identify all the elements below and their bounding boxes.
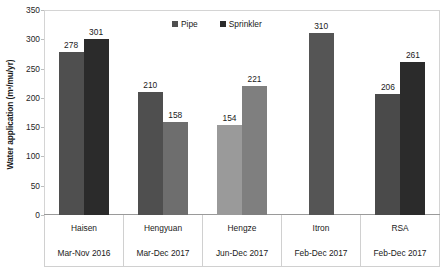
y-axis-tick-labels: 050100150200250300350: [14, 10, 40, 215]
bar-value-label: 278: [64, 40, 78, 50]
category-name: Itron: [282, 215, 360, 241]
bar-rect[interactable]: [84, 39, 109, 215]
bar-value-label: 154: [223, 113, 237, 123]
bar-sprinkler[interactable]: 261: [400, 10, 425, 215]
bar-chart: Water application (m³/mu/yr) 05010015020…: [0, 0, 447, 271]
y-axis-tick-mark: [41, 10, 44, 11]
category-period: Feb-Dec 2017: [361, 241, 439, 267]
bar-value-label: 310: [314, 21, 328, 31]
bar-pipe[interactable]: 154: [217, 10, 242, 215]
bar-rect[interactable]: [400, 62, 425, 215]
category-period: Mar-Dec 2017: [124, 241, 202, 267]
bar-rect[interactable]: [163, 122, 188, 215]
y-axis-tick-label: 0: [14, 210, 40, 220]
bar-group: 206261: [361, 10, 440, 215]
y-axis-tick-label: 150: [14, 122, 40, 132]
category-name: Hengze: [203, 215, 281, 241]
category-cell: HaisenMar-Nov 2016: [45, 215, 124, 267]
y-axis-tick-mark: [41, 156, 44, 157]
bar-group: 310: [282, 10, 361, 215]
y-axis-tick-label: 100: [14, 151, 40, 161]
bar-group: 210158: [123, 10, 202, 215]
legend-item[interactable]: Sprinkler: [220, 19, 262, 29]
bar-rect[interactable]: [59, 52, 84, 215]
bar-sprinkler[interactable]: 221: [242, 10, 267, 215]
category-cell: RSAFeb-Dec 2017: [361, 215, 440, 267]
y-axis-tick-mark: [41, 39, 44, 40]
bar-pipe[interactable]: 310: [309, 10, 334, 215]
y-axis-tick-mark: [41, 127, 44, 128]
chart-legend: PipeSprinkler: [172, 19, 262, 29]
bar-value-label: 206: [381, 82, 395, 92]
y-axis-tick-label: 200: [14, 93, 40, 103]
category-name: RSA: [361, 215, 439, 241]
category-cell: ItronFeb-Dec 2017: [282, 215, 361, 267]
y-axis-tick-mark: [41, 186, 44, 187]
y-axis-tick-label: 350: [14, 5, 40, 15]
category-name: Haisen: [45, 215, 123, 241]
y-axis-tick-mark: [41, 69, 44, 70]
category-cell: HengzeJun-Dec 2017: [203, 215, 282, 267]
category-period: Feb-Dec 2017: [282, 241, 360, 267]
bar-rect[interactable]: [309, 33, 334, 215]
bar-group: 278301: [44, 10, 123, 215]
bar-sprinkler[interactable]: 301: [84, 10, 109, 215]
y-axis-tick-label: 300: [14, 34, 40, 44]
bar-pipe[interactable]: 210: [138, 10, 163, 215]
bar-groups: 278301210158154221310206261: [44, 10, 440, 215]
y-axis-tick-label: 50: [14, 181, 40, 191]
bar-rect[interactable]: [138, 92, 163, 215]
legend-swatch-icon: [172, 21, 178, 27]
bar-pipe[interactable]: 278: [59, 10, 84, 215]
legend-label: Sprinkler: [229, 19, 262, 29]
bar-group: 154221: [202, 10, 281, 215]
legend-swatch-icon: [220, 21, 226, 27]
bar-value-label: 210: [143, 80, 157, 90]
category-cell: HengyuanMar-Dec 2017: [124, 215, 203, 267]
bar-value-label: 261: [406, 50, 420, 60]
bar-rect[interactable]: [375, 94, 400, 215]
bar-value-label: 301: [89, 27, 103, 37]
category-period: Mar-Nov 2016: [45, 241, 123, 267]
bar-sprinkler[interactable]: 158: [163, 10, 188, 215]
category-name: Hengyuan: [124, 215, 202, 241]
category-axis-table: HaisenMar-Nov 2016HengyuanMar-Dec 2017He…: [44, 215, 440, 267]
legend-label: Pipe: [181, 19, 198, 29]
bar-pipe[interactable]: 206: [375, 10, 400, 215]
bar-rect[interactable]: [242, 86, 267, 215]
y-axis-tick-label: 250: [14, 64, 40, 74]
y-axis-tick-mark: [41, 215, 44, 216]
bar-rect[interactable]: [217, 125, 242, 215]
category-period: Jun-Dec 2017: [203, 241, 281, 267]
bar-value-label: 221: [248, 74, 262, 84]
legend-item[interactable]: Pipe: [172, 19, 198, 29]
y-axis-tick-mark: [41, 98, 44, 99]
bar-value-label: 158: [168, 110, 182, 120]
